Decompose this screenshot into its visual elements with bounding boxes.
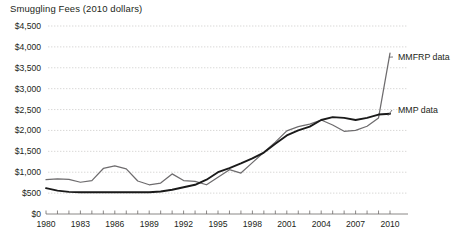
x-tick-label: 1995	[208, 219, 227, 229]
x-tick-label: 1998	[243, 219, 262, 229]
x-tick-label: 1980	[36, 219, 55, 229]
x-tick-label: 2007	[346, 219, 365, 229]
x-axis-ticks: 1980198319861989199219951998200120042007…	[36, 211, 399, 230]
y-tick-label: $1,000	[15, 167, 42, 177]
plot-area: $0$500$1,000$1,500$2,000$2,500$3,000$3,5…	[0, 0, 457, 244]
y-tick-label: $2,500	[15, 105, 42, 115]
x-tick-label: 1983	[71, 219, 90, 229]
leader-line-mmp	[388, 110, 392, 116]
y-tick-label: $2,000	[15, 125, 42, 135]
y-tick-label: $1,500	[15, 146, 42, 156]
y-tick-label: $3,500	[15, 63, 42, 73]
series-line-mmp	[46, 114, 390, 193]
series-label-mmfrp: MMFRP data	[398, 52, 450, 62]
x-tick-label: 1989	[140, 219, 159, 229]
y-tick-label: $4,500	[15, 21, 42, 31]
y-tick-label: $0	[31, 209, 41, 219]
y-tick-label: $3,000	[15, 84, 42, 94]
x-tick-label: 1992	[174, 219, 193, 229]
y-tick-label: $4,000	[15, 42, 42, 52]
data-series	[46, 53, 390, 192]
series-labels: MMFRP dataMMP data	[388, 52, 450, 116]
x-tick-label: 2001	[277, 219, 296, 229]
x-tick-label: 1986	[105, 219, 124, 229]
y-tick-label: $500	[22, 188, 41, 198]
x-tick-label: 2004	[312, 219, 331, 229]
x-tick-label: 2010	[380, 219, 399, 229]
smuggling-fees-chart: Smuggling Fees (2010 dollars) $0$500$1,0…	[0, 0, 457, 244]
series-label-mmp: MMP data	[398, 105, 438, 115]
series-line-mmfrp	[46, 53, 390, 185]
y-axis-ticks: $0$500$1,000$1,500$2,000$2,500$3,000$3,5…	[15, 21, 42, 219]
